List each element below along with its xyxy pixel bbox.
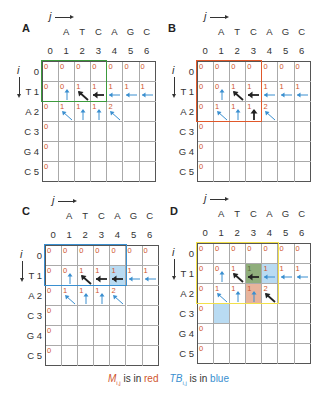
matrix-cell (246, 324, 262, 344)
matrix-cell: 0 (46, 326, 62, 346)
column-index: 3 (93, 229, 109, 240)
arrow-up-icon (230, 284, 246, 304)
matrix-cell: 0 (59, 62, 75, 82)
matrix-cell (140, 102, 156, 122)
column-index: 4 (106, 45, 122, 56)
m-value: 0 (199, 142, 203, 151)
matrix-cell (214, 162, 230, 182)
dp-matrix: 0000000001111101112000 (42, 61, 156, 182)
j-axis-label: j (204, 192, 206, 204)
column-index: 6 (139, 45, 155, 56)
matrix-cell (279, 324, 295, 344)
row-label: C 5 (13, 350, 42, 361)
seq-j-letter: A (58, 26, 74, 37)
seq-j-letter: C (90, 26, 106, 37)
m-value: 0 (44, 102, 48, 111)
arrow-diagonal-icon (262, 102, 278, 122)
matrix-cell (91, 142, 107, 162)
matrix-cell: 0 (230, 62, 246, 82)
column-index: 0 (197, 227, 213, 238)
matrix-cell (279, 102, 295, 122)
seq-j-letter: G (123, 26, 139, 37)
matrix-cell (246, 162, 262, 182)
matrix-cell (110, 326, 126, 346)
m-value: 0 (44, 142, 48, 151)
matrix-cell (279, 284, 295, 304)
column-index: 1 (61, 229, 77, 240)
matrix-cell: 0 (198, 324, 214, 344)
matrix-cell: 0 (198, 344, 214, 364)
row-label: 0 (10, 66, 39, 77)
legend-m-symbol: Mi,j (108, 373, 121, 384)
matrix-cell: 0 (262, 244, 278, 264)
seq-j-letter: C (142, 210, 158, 221)
matrix-cell (140, 142, 156, 162)
matrix-cell: 0 (46, 346, 62, 366)
matrix-cell (124, 162, 140, 182)
m-value: 0 (76, 62, 80, 71)
seq-j-letter: A (61, 210, 77, 221)
matrix-cell (62, 346, 78, 366)
m-value: 0 (47, 266, 51, 275)
m-value: 0 (44, 62, 48, 71)
m-value: 0 (280, 62, 284, 71)
column-index: 6 (294, 45, 310, 56)
column-index: 3 (90, 45, 106, 56)
matrix-cell (143, 326, 159, 346)
m-value: 0 (47, 346, 51, 355)
m-value: 0 (63, 246, 67, 255)
matrix-cell: 0 (91, 62, 107, 82)
seq-j-letter: A (213, 208, 229, 219)
row-label: C 3 (165, 126, 194, 137)
matrix-cell (94, 306, 110, 326)
matrix-cell: 0 (43, 122, 59, 142)
matrix-cell (230, 122, 246, 142)
matrix-cell: 0 (94, 246, 110, 266)
matrix-cell: 0 (62, 246, 78, 266)
matrix-cell: 0 (246, 244, 262, 264)
matrix-cell (59, 162, 75, 182)
matrix-cell (78, 326, 94, 346)
arrow-left-icon (246, 82, 262, 102)
m-value: 0 (199, 264, 203, 273)
j-arrow-icon (58, 201, 74, 202)
matrix-cell (214, 122, 230, 142)
matrix-cell (262, 304, 278, 324)
m-value: 0 (79, 246, 83, 255)
arrow-up-icon (230, 102, 246, 122)
matrix-cell: 0 (110, 246, 126, 266)
arrow-diagonal-icon (59, 102, 75, 122)
m-value: 0 (60, 62, 64, 71)
row-label: C 5 (165, 166, 194, 177)
arrow-up-icon (75, 102, 91, 122)
row-label: G 4 (13, 330, 42, 341)
arrow-diagonal-icon (110, 286, 126, 306)
row-label: A 2 (13, 290, 42, 301)
arrow-diagonal-icon (75, 82, 91, 102)
seq-j-letter: A (106, 26, 122, 37)
dp-matrix: 0000000001111101112000 (45, 245, 159, 366)
column-index: 5 (123, 45, 139, 56)
matrix-cell (62, 326, 78, 346)
m-value: 0 (47, 306, 51, 315)
arrow-left-icon (124, 82, 140, 102)
matrix-cell: 0 (279, 244, 295, 264)
seq-j-letter: C (93, 210, 109, 221)
column-index: 2 (74, 45, 90, 56)
seq-j-letter: C (294, 26, 310, 37)
matrix-cell (295, 102, 311, 122)
matrix-cell: 0 (279, 62, 295, 82)
matrix-cell (62, 306, 78, 326)
matrix-cell (230, 142, 246, 162)
j-arrow-icon (55, 17, 71, 18)
matrix-cell: 0 (198, 142, 214, 162)
seq-j-letter: A (213, 26, 229, 37)
arrow-left-icon (110, 266, 126, 286)
matrix-cell: 0 (246, 62, 262, 82)
column-index: 0 (42, 45, 58, 56)
matrix-cell (107, 142, 123, 162)
j-arrow-icon (210, 199, 226, 200)
matrix-cell (262, 344, 278, 364)
matrix-cell (246, 344, 262, 364)
m-value: 0 (199, 344, 203, 353)
